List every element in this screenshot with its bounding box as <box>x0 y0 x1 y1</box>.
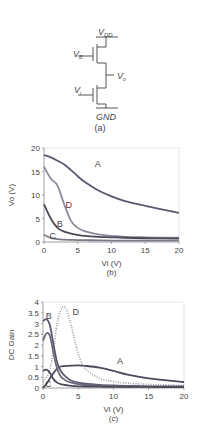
chart-dc-gain-vs-vi: 0510152000.511.522.533.54ADBCVi (V)DC Ga… <box>0 295 198 448</box>
series-d <box>44 167 179 238</box>
x-tick-label: 20 <box>180 392 189 401</box>
y-tick-label: 3 <box>35 320 40 329</box>
vo-label: Vo <box>117 71 126 82</box>
y-tick-label: 15 <box>31 168 40 177</box>
circuit-schematic: VDD VB Vo Vi GND (a) <box>0 0 198 140</box>
series-b <box>43 319 184 386</box>
series-label-d: D <box>73 307 80 317</box>
x-tick-label: 20 <box>175 246 184 255</box>
y-tick-label: 4 <box>35 298 40 307</box>
y-tick-label: 1 <box>35 363 40 372</box>
series-label-b: B <box>46 311 52 321</box>
vdd-label: VDD <box>98 27 113 38</box>
y-tick-label: 1.5 <box>28 352 40 361</box>
series-label-d: D <box>66 200 73 210</box>
y-tick-label: 5 <box>36 215 41 224</box>
x-tick-label: 10 <box>109 392 118 401</box>
series-label-c: C <box>45 379 52 389</box>
y-axis-title: DC Gain <box>7 330 16 361</box>
vb-label: VB <box>73 49 83 60</box>
y-tick-label: 0 <box>36 238 41 247</box>
x-tick-label: 0 <box>41 392 46 401</box>
series-label-c: C <box>49 231 56 241</box>
series-label-b: B <box>57 219 63 229</box>
plot-area: 0510152000.511.522.533.54ADBC <box>28 298 189 401</box>
x-tick-label: 5 <box>76 246 81 255</box>
x-tick-label: 15 <box>144 392 153 401</box>
x-axis-title: Vi (V) <box>104 405 124 414</box>
chart-caption: (c) <box>109 414 119 423</box>
y-tick-label: 0.5 <box>28 373 40 382</box>
caption-a: (a) <box>95 123 106 133</box>
plot-area: 0510152005101520ADBC <box>31 144 184 255</box>
chart-vo-vs-vi: 0510152005101520ADBCVi (V)Vo (V)(b) <box>0 135 198 295</box>
y-tick-label: 10 <box>31 191 40 200</box>
gnd-label: GND <box>96 112 117 122</box>
y-tick-label: 20 <box>31 144 40 153</box>
x-tick-label: 5 <box>76 392 81 401</box>
x-axis-title: Vi (V) <box>102 259 122 268</box>
x-tick-label: 0 <box>42 246 47 255</box>
chart-caption: (b) <box>107 268 117 277</box>
series-label-a: A <box>95 159 101 169</box>
y-tick-label: 3.5 <box>28 309 40 318</box>
y-axis-title: Vo (V) <box>7 184 16 207</box>
y-tick-label: 0 <box>35 384 40 393</box>
y-tick-label: 2 <box>35 341 40 350</box>
x-tick-label: 10 <box>107 246 116 255</box>
series-d <box>43 306 184 385</box>
series-label-a: A <box>117 356 123 366</box>
y-tick-label: 2.5 <box>28 330 40 339</box>
series-b2 <box>43 333 184 387</box>
x-tick-label: 15 <box>141 246 150 255</box>
vi-label: Vi <box>74 85 82 96</box>
